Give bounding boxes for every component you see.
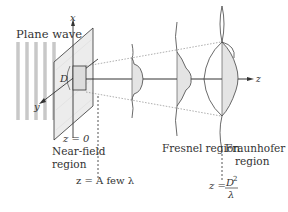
z-axis-label: z [255,74,261,84]
formula-exponent: 2 [233,175,237,183]
formula-denominator: λ [227,189,234,200]
near-field-label-line2: region [52,158,87,170]
y-axis-label: y [33,101,40,112]
z-few-lambda-label: z = A few λ [76,175,135,186]
aperture [73,66,86,90]
near-field-label-line1: Near-field [52,145,106,157]
fraunhofer-profile [204,6,238,150]
x-axis-label: x [70,12,76,23]
diffraction-regions-diagram: Plane wave x y D z [0,0,288,212]
z-axis-arrow-icon [247,77,254,81]
plane-wave-label: Plane wave [16,27,82,41]
near-field-profile [132,44,143,118]
fraunhofer-label-line1: Fraunhofer [225,142,286,154]
formula-prefix: z = [208,180,226,191]
aperture-size-label: D [59,73,68,84]
fraunhofer-label-line2: region [235,155,270,167]
fraunhofer-distance-formula: z = D 2 λ [208,175,238,200]
fresnel-profile [176,22,192,136]
z-zero-label: z = 0 [62,133,90,144]
